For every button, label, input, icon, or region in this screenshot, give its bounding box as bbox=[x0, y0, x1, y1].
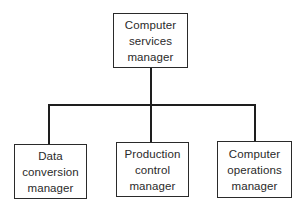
connector-horizontal-bar bbox=[48, 104, 256, 106]
node-label: Computer operations manager bbox=[227, 146, 282, 194]
node-computer-operations-manager: Computer operations manager bbox=[217, 141, 292, 198]
node-production-control-manager: Production control manager bbox=[116, 142, 189, 197]
connector-middle-branch bbox=[150, 104, 152, 142]
connector-root-trunk bbox=[150, 67, 152, 106]
node-label: Data conversion manager bbox=[22, 148, 79, 196]
node-computer-services-manager: Computer services manager bbox=[113, 13, 188, 68]
org-chart: Computer services manager Data conversio… bbox=[0, 0, 304, 209]
node-label: Production control manager bbox=[125, 146, 181, 194]
connector-left-branch bbox=[48, 104, 50, 144]
connector-right-branch bbox=[254, 104, 256, 141]
node-label: Computer services manager bbox=[125, 17, 176, 65]
node-data-conversion-manager: Data conversion manager bbox=[14, 144, 87, 199]
